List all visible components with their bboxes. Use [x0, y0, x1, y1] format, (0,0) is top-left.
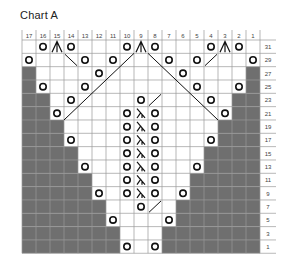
row-number: 7	[266, 204, 270, 210]
yarn-over-icon	[124, 243, 130, 249]
yarn-over-icon	[82, 83, 88, 89]
double-decrease-icon	[52, 42, 62, 53]
no-stitch-cell	[78, 227, 92, 240]
no-stitch-cell	[218, 133, 232, 146]
no-stitch-cell	[218, 200, 232, 213]
no-stitch-cell	[232, 173, 246, 186]
no-stitch-cell	[36, 120, 50, 133]
no-stitch-cell	[246, 227, 260, 240]
no-stitch-cell	[92, 227, 106, 240]
no-stitch-cell	[232, 120, 246, 133]
no-stitch-cell	[50, 147, 64, 160]
no-stitch-cell	[78, 187, 92, 200]
yarn-over-icon	[222, 110, 228, 116]
no-stitch-cell	[232, 200, 246, 213]
column-number: 10	[124, 33, 131, 39]
no-stitch-cell	[190, 227, 204, 240]
no-stitch-cell	[106, 227, 120, 240]
no-stitch-cell	[190, 173, 204, 186]
row-number: 19	[265, 124, 272, 130]
yarn-over-icon	[208, 97, 214, 103]
no-stitch-cell	[36, 200, 50, 213]
no-stitch-cell	[246, 80, 260, 93]
no-stitch-cell	[36, 240, 50, 253]
no-stitch-cell	[50, 187, 64, 200]
no-stitch-cell	[78, 173, 92, 186]
yarn-over-icon	[152, 43, 158, 49]
yarn-over-icon	[96, 190, 102, 196]
column-number: 5	[195, 33, 199, 39]
no-stitch-cell	[22, 160, 36, 173]
yarn-over-icon	[124, 137, 130, 143]
column-number: 7	[167, 33, 171, 39]
yarn-over-icon	[208, 43, 214, 49]
row-number: 31	[265, 44, 272, 50]
yarn-over-icon	[54, 110, 60, 116]
decrease-icon	[137, 135, 145, 144]
no-stitch-cell	[218, 240, 232, 253]
yarn-over-icon	[250, 57, 256, 63]
no-stitch-cell	[246, 147, 260, 160]
row-number: 9	[266, 191, 270, 197]
column-number: 2	[237, 33, 241, 39]
decrease-icon	[137, 122, 145, 131]
no-stitch-cell	[64, 187, 78, 200]
no-stitch-cell	[22, 133, 36, 146]
no-stitch-cell	[22, 213, 36, 226]
no-stitch-cell	[64, 173, 78, 186]
no-stitch-cell	[106, 240, 120, 253]
yarn-over-icon	[194, 83, 200, 89]
no-stitch-cell	[246, 67, 260, 80]
yarn-over-icon	[110, 217, 116, 223]
decrease-icon	[137, 149, 145, 158]
no-stitch-cell	[218, 147, 232, 160]
no-stitch-cell	[246, 120, 260, 133]
row-number: 5	[266, 217, 270, 223]
no-stitch-cell	[162, 240, 176, 253]
row-number: 13	[265, 164, 272, 170]
no-stitch-cell	[204, 173, 218, 186]
no-stitch-cell	[218, 160, 232, 173]
yarn-over-icon	[138, 97, 144, 103]
no-stitch-cell	[232, 187, 246, 200]
row-number: 1	[266, 244, 270, 250]
no-stitch-cell	[204, 160, 218, 173]
column-number: 15	[54, 33, 61, 39]
yarn-over-icon	[26, 57, 32, 63]
no-stitch-cell	[246, 160, 260, 173]
no-stitch-cell	[232, 147, 246, 160]
yarn-over-icon	[40, 83, 46, 89]
yarn-over-icon	[124, 43, 130, 49]
no-stitch-cell	[36, 227, 50, 240]
yarn-over-icon	[68, 97, 74, 103]
k2tog-icon	[149, 201, 161, 212]
no-stitch-cell	[246, 107, 260, 120]
no-stitch-cell	[64, 160, 78, 173]
no-stitch-cell	[22, 120, 36, 133]
row-number: 29	[265, 57, 272, 63]
no-stitch-cell	[204, 240, 218, 253]
yarn-over-icon	[152, 243, 158, 249]
yarn-over-icon	[152, 123, 158, 129]
no-stitch-cell	[36, 107, 50, 120]
no-stitch-cell	[22, 80, 36, 93]
column-number: 4	[209, 33, 213, 39]
yarn-over-icon	[152, 190, 158, 196]
yarn-over-icon	[152, 177, 158, 183]
no-stitch-cell	[36, 213, 50, 226]
yarn-over-icon	[138, 203, 144, 209]
no-stitch-cell	[64, 147, 78, 160]
row-number: 21	[265, 111, 272, 117]
row-number: 23	[265, 97, 272, 103]
no-stitch-cell	[246, 93, 260, 106]
column-number: 3	[223, 33, 227, 39]
no-stitch-cell	[176, 240, 190, 253]
no-stitch-cell	[246, 200, 260, 213]
yarn-over-icon	[194, 57, 200, 63]
yarn-over-icon	[180, 70, 186, 76]
no-stitch-cell	[22, 187, 36, 200]
decrease-icon	[137, 162, 145, 171]
no-stitch-cell	[204, 147, 218, 160]
yarn-over-icon	[68, 137, 74, 143]
yarn-over-icon	[124, 190, 130, 196]
